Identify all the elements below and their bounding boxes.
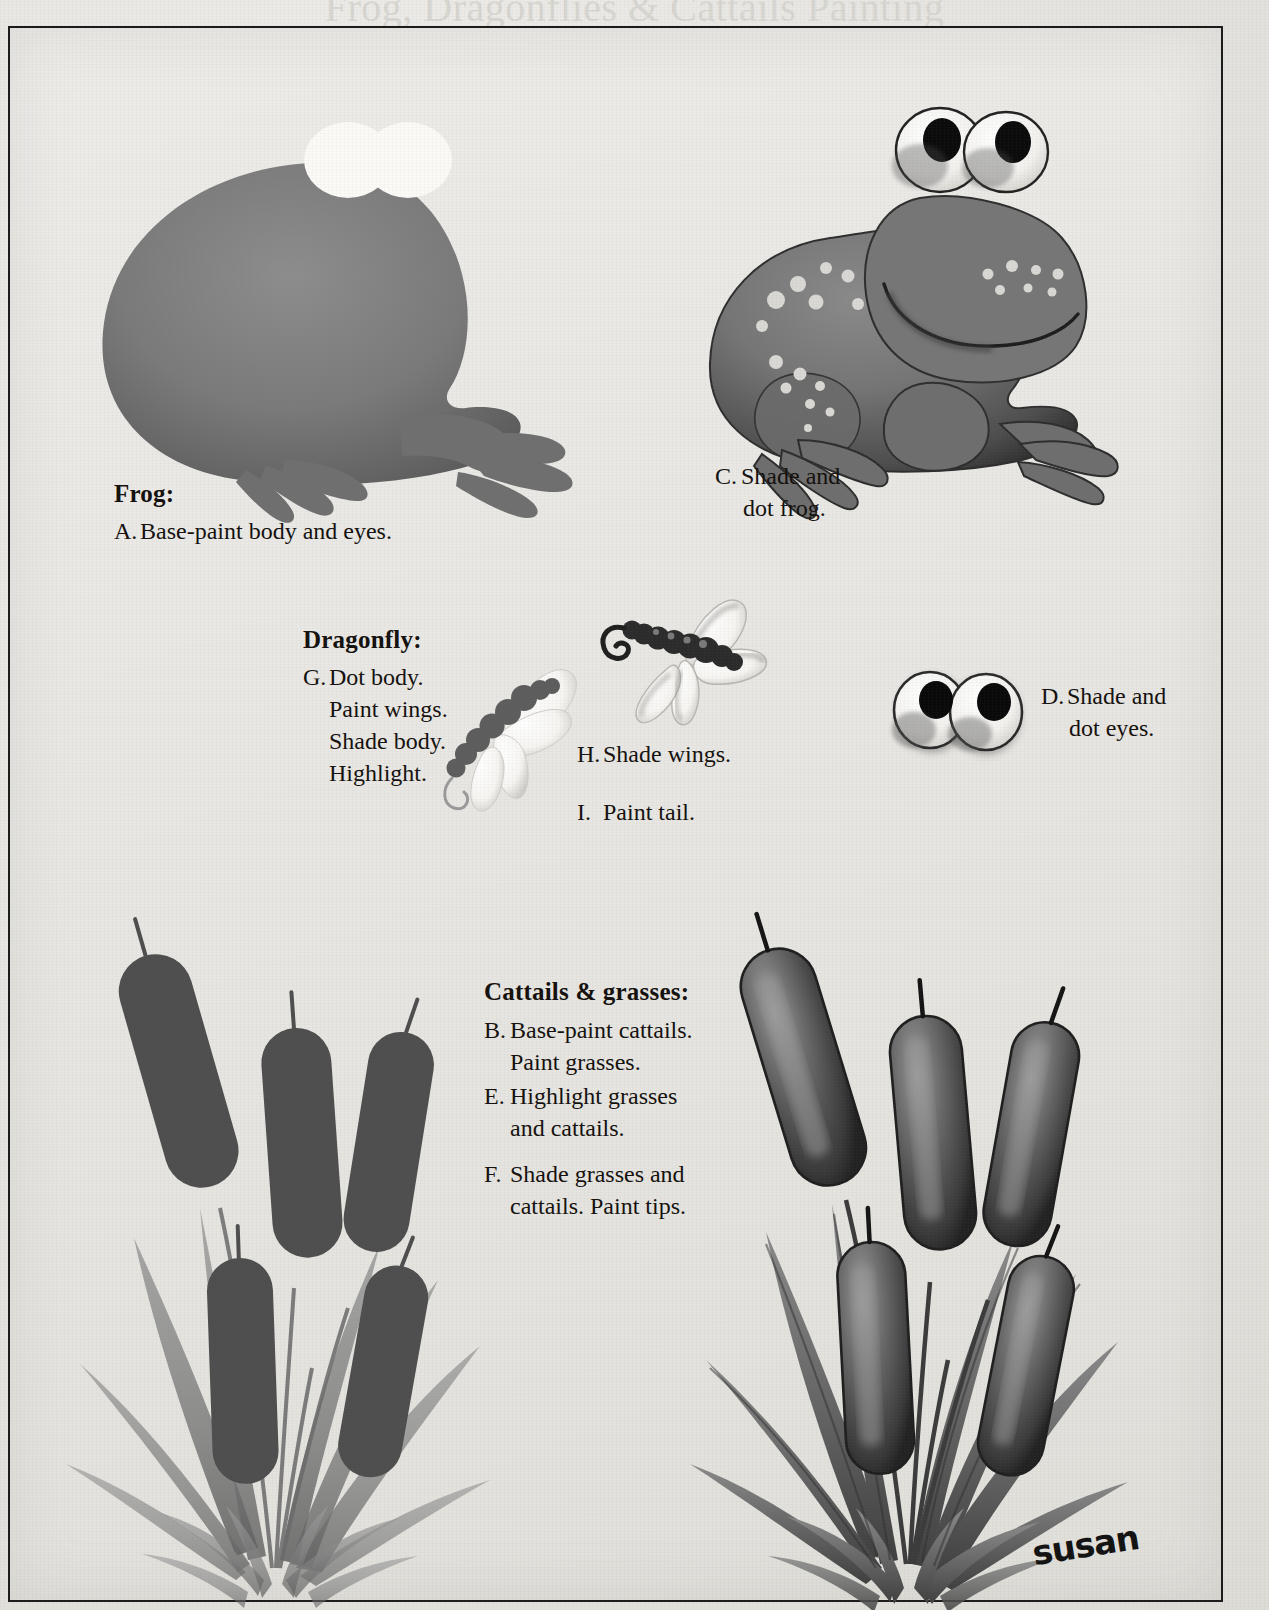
frog-step-a-letter: A. (114, 515, 140, 547)
dragonfly-step-i-text: Paint tail. (603, 799, 695, 825)
dragonfly-step-g-letter: G. (303, 661, 329, 693)
dragonfly-step-h: H.Shade wings. (577, 738, 837, 770)
dragonfly-step-h-text: Shade wings. (603, 741, 731, 767)
frog-base-eyes (304, 122, 452, 198)
frog-step-d-letter: D. (1041, 680, 1067, 712)
frog-finished-illustration (670, 88, 1120, 508)
frog-step-a: A.Base-paint body and eyes. (114, 515, 534, 547)
cattails-step-f: F.Shade grasses and cattails. Paint tips… (484, 1158, 774, 1222)
dragonfly-section-heading: Dragonfly: (303, 626, 422, 654)
cattails-step-e-text2: and cattails. (484, 1112, 764, 1144)
dragonfly-step-i-letter: I. (577, 796, 603, 828)
cattails-step-b: B.Base-paint cattails. Paint grasses. (484, 1014, 764, 1078)
frog-step-c-letter: C. (715, 460, 741, 492)
cattails-base-illustration (50, 908, 530, 1598)
cattails-step-b-letter: B. (484, 1014, 510, 1046)
dragonfly-step-g-text4: Highlight. (303, 757, 553, 789)
cattail-heads-finished (720, 903, 1090, 1481)
frog-base-body (102, 163, 572, 523)
cattails-step-e-text1: Highlight grasses (510, 1083, 677, 1109)
dragonfly-step-h-letter: H. (577, 738, 603, 770)
cattails-step-b-text1: Base-paint cattails. (510, 1017, 693, 1043)
cattails-step-e: E.Highlight grasses and cattails. (484, 1080, 764, 1144)
frog-step-d-text2: dot eyes. (1041, 712, 1241, 744)
dragonfly-step-g-text3: Shade body. (303, 725, 553, 757)
frog-section-heading: Frog: (114, 480, 174, 508)
page-frame-inner: Frog: A.Base-paint body and eyes. C.Shad… (10, 28, 1221, 1600)
frog-step-c: C.Shade and dot frog. (715, 460, 975, 524)
dragonfly-step-g-text2: Paint wings. (303, 693, 553, 725)
cattails-step-f-letter: F. (484, 1158, 510, 1190)
cattail-heads (100, 909, 445, 1485)
page-canvas: Frog, Dragonflies & Cattails Painting (0, 0, 1269, 1610)
frog-step-c-text: Shade and (741, 463, 840, 489)
cattails-step-f-text1: Shade grasses and (510, 1161, 685, 1187)
cattails-step-b-text2: Paint grasses. (484, 1046, 764, 1078)
frog-finished-eyes (892, 108, 1048, 192)
dragonfly-step-g: G.Dot body. Paint wings. Shade body. Hig… (303, 661, 553, 790)
cattails-step-e-letter: E. (484, 1080, 510, 1112)
frog-base-illustration (70, 88, 590, 508)
dragonfly-step-i: I.Paint tail. (577, 796, 837, 828)
frog-step-c-text2: dot frog. (715, 492, 975, 524)
eyes-illustration (870, 648, 1050, 778)
frog-finished-body (710, 108, 1118, 518)
cattails-section-heading: Cattails & grasses: (484, 978, 689, 1006)
cattails-finished-illustration (640, 908, 1160, 1608)
frog-step-d-text1: Shade and (1067, 683, 1166, 709)
dragonfly-step-g-text1: Dot body. (329, 664, 423, 690)
dragonfly-finished-wings (636, 600, 766, 725)
cattails-step-f-text2: cattails. Paint tips. (484, 1190, 774, 1222)
frog-step-a-text: Base-paint body and eyes. (140, 518, 392, 544)
frog-step-d: D.Shade and dot eyes. (1041, 680, 1241, 744)
